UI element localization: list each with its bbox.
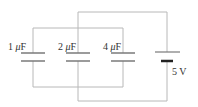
capacitor-2-symbol	[66, 53, 90, 61]
circuit-diagram	[0, 0, 198, 107]
capacitor-1-symbol	[21, 53, 45, 61]
capacitor-2-label: 2 μF	[58, 42, 76, 52]
outer-loop-wire	[78, 12, 167, 101]
capacitor-1-label: 1 μF	[8, 42, 26, 52]
capacitor-3-symbol	[111, 53, 135, 61]
capacitor-2-unit: F	[71, 41, 77, 52]
capacitor-1-unit: F	[21, 41, 27, 52]
capacitor-3-value: 4	[103, 41, 108, 52]
battery-label: 5 V	[172, 67, 187, 77]
capacitor-3-unit: F	[116, 41, 122, 52]
battery-symbol	[155, 52, 180, 61]
capacitor-1-value: 1	[8, 41, 13, 52]
capacitor-3-label: 4 μF	[103, 42, 121, 52]
capacitor-2-value: 2	[58, 41, 63, 52]
